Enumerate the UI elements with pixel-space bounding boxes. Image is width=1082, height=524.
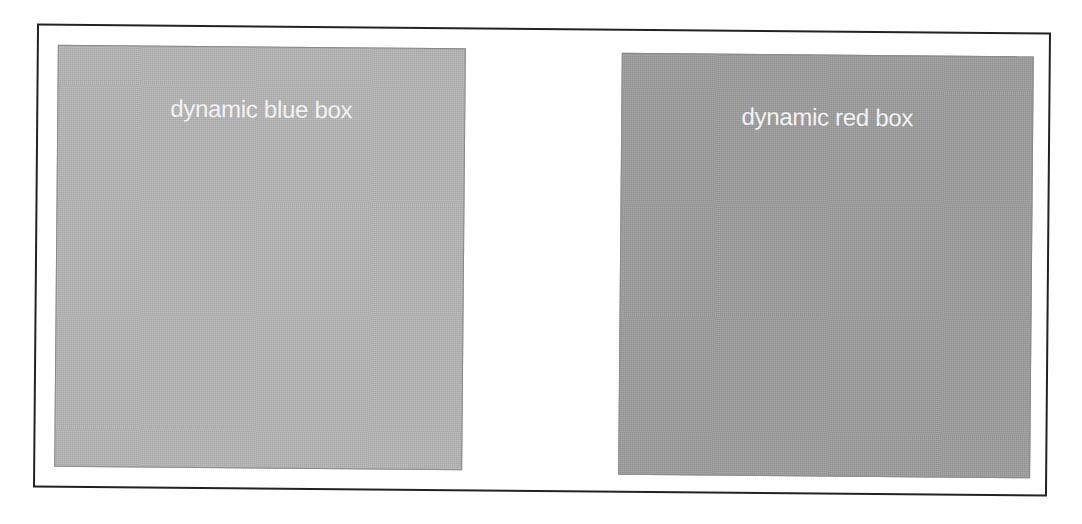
dynamic-red-box[interactable]: dynamic red box [618,53,1034,479]
dynamic-blue-box[interactable]: dynamic blue box [54,45,466,471]
red-box-label: dynamic red box [622,102,1032,134]
container-frame: dynamic blue box dynamic red box [33,24,1051,497]
blue-box-label: dynamic blue box [58,94,464,126]
